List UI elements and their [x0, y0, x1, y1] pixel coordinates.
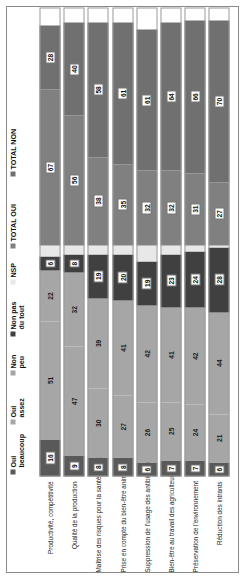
segment-value: 22	[46, 292, 53, 299]
chart-row: Suppression de l'usage des antibiotiques…	[136, 7, 157, 572]
segment-value: 6	[45, 259, 55, 267]
category-label: Préservation de l'environnement	[191, 476, 198, 572]
chart-row: Préservation de l'environnement724422431…	[184, 7, 205, 572]
bar-segment-non-peu: 41	[112, 300, 133, 395]
bar-segment-oui-beaucoup: 6	[136, 462, 157, 476]
bar-segment-nsp	[136, 245, 157, 261]
segment-value: 40	[69, 63, 79, 75]
segment-value: 42	[191, 352, 198, 359]
stacked-bar[interactable]: 72541233264	[160, 7, 181, 476]
bar-segment-oui-assez: 27	[112, 395, 133, 458]
chart-row: Productivité, compétitivité16512266728	[39, 7, 60, 572]
segment-value: 38	[93, 194, 103, 206]
stacked-bar[interactable]: 62642193261	[136, 7, 157, 476]
legend-label-non-pas-du-tout: Non pas du tout	[9, 301, 26, 329]
bar-segment-total-oui: 31	[184, 173, 205, 245]
segment-value: 6	[141, 465, 151, 473]
segment-value: 32	[166, 201, 176, 213]
segment-value: 27	[119, 423, 126, 430]
segment-value: 44	[215, 359, 222, 366]
bar-segment-total-oui: 35	[112, 164, 133, 245]
legend-swatch-oui-beaucoup	[10, 469, 15, 474]
bar-segment-total-non: 64	[160, 22, 181, 170]
legend-swatch-oui-assez	[10, 419, 15, 424]
segment-value: 70	[214, 95, 224, 107]
segment-value: 42	[143, 350, 150, 357]
legend-swatch-nsp	[10, 279, 15, 284]
bar-segment-oui-assez: 51	[39, 321, 60, 439]
bar-segment-non-pas-du-tout: 28	[208, 247, 229, 312]
category-label: Qualité de la production	[70, 476, 77, 572]
legend-label-non-peu: Non peu	[9, 354, 26, 368]
stacked-bar[interactable]: 72442243166	[184, 7, 205, 476]
segment-value: 47	[70, 397, 77, 404]
segment-value: 61	[141, 94, 151, 106]
segment-value: 16	[45, 451, 55, 463]
bar-segment-non-peu: 44	[208, 312, 229, 414]
bar-segment-oui-assez: 25	[160, 402, 181, 460]
category-label: Suppression de l'usage des antibiotiques…	[143, 476, 150, 572]
bar-segment-non-pas-du-tout: 23	[160, 254, 181, 307]
segment-value: 9	[69, 461, 79, 469]
stacked-bar[interactable]: 62144282770	[208, 7, 229, 476]
legend-swatch-non-pas-du-tout	[10, 331, 15, 336]
legend-item-total-non: TOTAL NON	[9, 128, 17, 176]
segment-value: 26	[143, 428, 150, 435]
legend-label-oui-assez: Oui assez	[9, 398, 26, 417]
segment-value: 66	[190, 90, 200, 102]
bar-segment-non-pas-du-tout: 8	[63, 254, 84, 273]
bar-segment-non-pas-du-tout: 19	[136, 261, 157, 305]
chart-row: Bien-être au travail des agriculteurs725…	[160, 7, 181, 572]
category-label: Maîtrise des risques pour la santé des c…	[94, 476, 101, 572]
chart-row: Prise en compte du bien-être animal82741…	[112, 7, 133, 572]
bar-segment-oui-assez: 26	[136, 402, 157, 462]
legend-label-oui-beaucoup: Oui beaucoup	[9, 433, 26, 467]
segment-value: 24	[190, 273, 200, 285]
bar-segment-non-peu: 32	[63, 272, 84, 346]
segment-value: 56	[69, 174, 79, 186]
chart-row: Maîtrise des risques pour la santé des c…	[87, 7, 108, 572]
segment-value: 7	[190, 464, 200, 472]
bar-segment-non-peu: 42	[184, 307, 205, 404]
bar-segment-non-pas-du-tout: 19	[87, 254, 108, 298]
bar-segment-total-oui: 32	[136, 170, 157, 244]
stacked-bar[interactable]: 16512266728	[39, 7, 60, 476]
bar-segment-nsp	[160, 245, 181, 254]
bar-segment-non-pas-du-tout: 6	[39, 256, 60, 270]
chart-row: Qualité de la production9473285640	[63, 7, 84, 572]
segment-value: 8	[93, 463, 103, 471]
category-label: Réduction des intrants	[215, 476, 222, 572]
segment-value: 23	[166, 274, 176, 286]
legend-swatch-total-oui	[10, 243, 15, 248]
bar-segment-nsp	[39, 245, 60, 257]
segment-value: 61	[117, 87, 127, 99]
bar-segment-oui-beaucoup: 9	[63, 455, 84, 476]
segment-value: 21	[215, 434, 222, 441]
bar-segment-oui-assez: 30	[87, 388, 108, 457]
bar-segment-oui-beaucoup: 7	[160, 460, 181, 476]
segment-value: 27	[214, 207, 224, 219]
segment-value: 28	[214, 273, 224, 285]
segment-value: 31	[190, 203, 200, 215]
chart-legend: Oui beaucoup Oui assez Non peu Non pas d…	[9, 10, 35, 476]
bar-segment-total-oui: 27	[208, 182, 229, 245]
stacked-bar[interactable]: 82741203561	[112, 7, 133, 476]
segment-value: 6	[214, 465, 224, 473]
segment-value: 41	[167, 351, 174, 358]
bar-segment-oui-beaucoup: 6	[208, 462, 229, 476]
category-label: Bien-être au travail des agriculteurs	[167, 476, 174, 572]
stacked-bar[interactable]: 9473285640	[63, 7, 84, 476]
category-label: Productivité, compétitivité	[46, 476, 53, 572]
bar-segment-nsp	[184, 245, 205, 252]
bar-segment-total-oui: 38	[87, 157, 108, 245]
bar-segment-total-oui: 56	[63, 115, 84, 245]
category-label: Prise en compte du bien-être animal	[119, 476, 126, 572]
bar-segment-non-peu: 42	[136, 305, 157, 402]
segment-value: 64	[166, 90, 176, 102]
stacked-bar[interactable]: 83039193858	[87, 7, 108, 476]
bar-segment-non-pas-du-tout: 20	[112, 254, 133, 300]
bar-segment-oui-assez: 24	[184, 404, 205, 460]
bar-segment-nsp	[87, 245, 108, 254]
chart-canvas: Oui beaucoup Oui assez Non peu Non pas d…	[7, 7, 238, 572]
bar-segment-total-non: 70	[208, 20, 229, 182]
